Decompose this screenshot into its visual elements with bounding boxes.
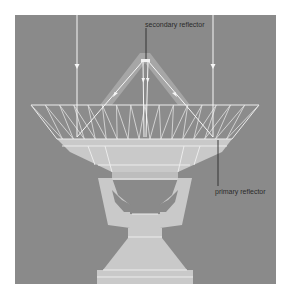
primary-reflector-label: primary reflector — [215, 188, 266, 196]
primary-reflector-truss — [31, 105, 259, 139]
secondary-reflector-label: secondary reflector — [145, 21, 205, 29]
radio-telescope-diagram: secondary reflector primary reflector — [0, 0, 290, 305]
